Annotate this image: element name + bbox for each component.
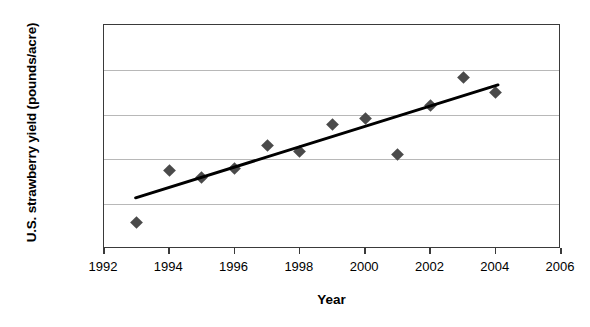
gridline (104, 159, 559, 160)
x-axis-tick-label: 1998 (269, 259, 329, 274)
x-axis-tick-label: 2004 (465, 259, 525, 274)
x-axis-tick-label: 1992 (73, 259, 133, 274)
data-point-marker (261, 139, 274, 152)
x-axis-tick (495, 248, 497, 254)
data-point-marker (457, 71, 470, 84)
data-point-marker (163, 164, 176, 177)
data-point-marker (130, 216, 143, 229)
gridline (104, 204, 559, 205)
chart-screenshot: U.S. strawberry yield (pounds/acre) 25,0… (0, 0, 590, 327)
x-axis-tick (560, 248, 562, 254)
x-axis-tick (364, 248, 366, 254)
x-axis-tick (103, 248, 105, 254)
data-point-marker (293, 145, 306, 158)
data-point-marker (326, 118, 339, 131)
x-axis-tick-label: 2006 (530, 259, 590, 274)
x-axis-title: Year (103, 292, 560, 307)
y-axis-title: U.S. strawberry yield (pounds/acre) (24, 8, 39, 258)
x-axis-tick-label: 1996 (204, 259, 264, 274)
x-axis-tick-label: 2002 (399, 259, 459, 274)
x-axis-tick-label: 1994 (138, 259, 198, 274)
plot-area (103, 24, 560, 248)
x-axis-tick (299, 248, 301, 254)
x-axis-tick (234, 248, 236, 254)
x-axis-tick (168, 248, 170, 254)
gridline (104, 70, 559, 71)
x-axis-tick (429, 248, 431, 254)
data-point-marker (424, 99, 437, 112)
gridline (104, 115, 559, 116)
data-point-marker (489, 86, 502, 99)
x-axis-tick-label: 2000 (334, 259, 394, 274)
data-point-marker (228, 162, 241, 175)
data-point-marker (196, 171, 209, 184)
